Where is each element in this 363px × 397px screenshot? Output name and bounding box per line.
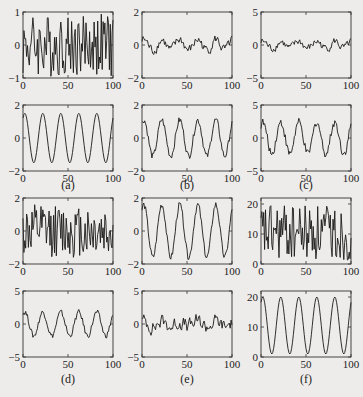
x-tick-label: 0 bbox=[20, 265, 26, 277]
y-tick-label: 20 bbox=[247, 291, 259, 303]
series-line bbox=[23, 14, 113, 76]
y-tick-label: −5 bbox=[127, 351, 139, 363]
y-tick-label: −5 bbox=[246, 165, 258, 177]
series-line bbox=[142, 118, 232, 159]
y-tick-label: −2 bbox=[127, 165, 139, 177]
y-tick-label: 2 bbox=[15, 192, 21, 204]
plot-c-bottom: 050100−505 bbox=[246, 99, 359, 184]
series-line bbox=[261, 38, 351, 51]
x-tick-label: 50 bbox=[182, 358, 194, 370]
y-tick-label: 5 bbox=[253, 99, 259, 111]
y-tick-label: 0 bbox=[15, 225, 21, 237]
y-tick-label: 0 bbox=[134, 225, 140, 237]
plot-f-top: 05010001020 bbox=[247, 198, 360, 277]
caption-b: (b) bbox=[167, 178, 207, 193]
x-tick-label: 100 bbox=[224, 265, 241, 277]
y-tick-label: 0 bbox=[15, 132, 21, 144]
x-tick-label: 0 bbox=[139, 265, 145, 277]
y-tick-label: 0 bbox=[134, 39, 140, 51]
y-tick-label: −1 bbox=[8, 72, 20, 84]
x-tick-label: 50 bbox=[63, 79, 75, 91]
plot-d-top: 050100−202 bbox=[8, 192, 121, 277]
y-tick-label: −5 bbox=[8, 351, 20, 363]
x-tick-label: 100 bbox=[105, 265, 122, 277]
x-tick-label: 0 bbox=[258, 79, 264, 91]
series-line bbox=[142, 203, 232, 260]
x-tick-label: 100 bbox=[224, 358, 241, 370]
x-tick-label: 0 bbox=[139, 358, 145, 370]
y-tick-label: 0 bbox=[15, 39, 21, 51]
y-tick-label: 0 bbox=[15, 318, 21, 330]
y-tick-label: 2 bbox=[134, 192, 140, 204]
series-line bbox=[261, 118, 351, 157]
y-tick-label: −2 bbox=[8, 258, 20, 270]
x-tick-label: 0 bbox=[258, 265, 264, 277]
x-tick-label: 50 bbox=[63, 265, 75, 277]
x-tick-label: 100 bbox=[105, 79, 122, 91]
caption-a: (a) bbox=[48, 178, 88, 193]
axes-frame bbox=[261, 105, 351, 171]
x-tick-label: 100 bbox=[105, 172, 122, 184]
axes-frame bbox=[23, 105, 113, 171]
y-tick-label: 2 bbox=[15, 99, 21, 111]
x-tick-label: 50 bbox=[301, 265, 313, 277]
x-tick-label: 100 bbox=[224, 172, 241, 184]
y-tick-label: −5 bbox=[246, 72, 258, 84]
caption-e: (e) bbox=[167, 372, 207, 387]
x-tick-label: 100 bbox=[343, 358, 360, 370]
y-tick-label: 10 bbox=[247, 321, 259, 333]
x-tick-label: 50 bbox=[182, 79, 194, 91]
y-tick-label: 20 bbox=[247, 198, 259, 210]
plot-b-top: 050100−202 bbox=[127, 6, 240, 91]
plot-e-top: 050100−202 bbox=[127, 192, 240, 277]
y-tick-label: −2 bbox=[127, 72, 139, 84]
plot-a-top: 050100−101 bbox=[8, 6, 121, 91]
y-tick-label: 0 bbox=[253, 39, 259, 51]
axes-frame bbox=[23, 291, 113, 357]
plot-e-bottom: 050100−505 bbox=[127, 285, 240, 370]
plot-a-bottom: 050100−202 bbox=[8, 99, 121, 184]
x-tick-label: 0 bbox=[139, 172, 145, 184]
x-tick-label: 50 bbox=[301, 79, 313, 91]
x-tick-label: 100 bbox=[343, 265, 360, 277]
series-line bbox=[23, 310, 113, 338]
x-tick-label: 100 bbox=[224, 79, 241, 91]
series-line bbox=[23, 113, 113, 163]
series-line bbox=[142, 315, 232, 336]
axes-frame bbox=[261, 12, 351, 78]
y-tick-label: 1 bbox=[15, 6, 21, 18]
y-tick-label: 10 bbox=[247, 228, 259, 240]
series-line bbox=[23, 205, 113, 258]
x-tick-label: 50 bbox=[301, 358, 313, 370]
x-tick-label: 0 bbox=[20, 79, 26, 91]
series-line bbox=[261, 206, 351, 260]
y-tick-label: 2 bbox=[134, 6, 140, 18]
y-tick-label: −2 bbox=[8, 165, 20, 177]
y-tick-label: 5 bbox=[15, 285, 21, 297]
y-tick-label: 2 bbox=[134, 99, 140, 111]
plot-f-bottom: 05010001020 bbox=[247, 291, 360, 370]
y-tick-label: 5 bbox=[253, 6, 259, 18]
x-tick-label: 100 bbox=[343, 172, 360, 184]
plot-b-bottom: 050100−202 bbox=[127, 99, 240, 184]
x-tick-label: 50 bbox=[182, 265, 194, 277]
y-tick-label: 0 bbox=[253, 132, 259, 144]
x-tick-label: 100 bbox=[105, 358, 122, 370]
x-tick-label: 0 bbox=[139, 79, 145, 91]
caption-f: (f) bbox=[286, 372, 326, 387]
y-tick-label: −2 bbox=[127, 258, 139, 270]
x-tick-label: 0 bbox=[20, 172, 26, 184]
y-tick-label: 0 bbox=[253, 351, 259, 363]
x-tick-label: 50 bbox=[63, 358, 75, 370]
y-tick-label: 0 bbox=[134, 318, 140, 330]
plot-d-bottom: 050100−505 bbox=[8, 285, 121, 370]
x-tick-label: 0 bbox=[258, 358, 264, 370]
caption-c: (c) bbox=[286, 178, 326, 193]
series-line bbox=[261, 297, 351, 354]
caption-d: (d) bbox=[48, 372, 88, 387]
x-tick-label: 0 bbox=[258, 172, 264, 184]
x-tick-label: 0 bbox=[20, 358, 26, 370]
series-line bbox=[142, 36, 232, 55]
y-tick-label: 0 bbox=[253, 258, 259, 270]
axes-frame bbox=[142, 12, 232, 78]
